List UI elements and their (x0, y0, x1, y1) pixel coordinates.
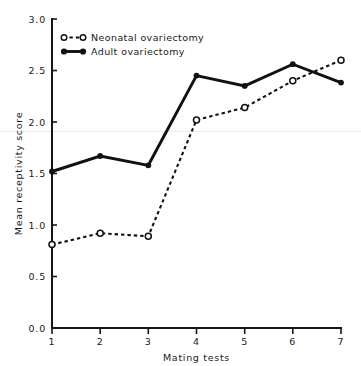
y-tick-label: 2.5 (28, 65, 46, 76)
data-point (290, 78, 296, 84)
data-point (194, 117, 200, 123)
x-tick-label: 5 (241, 336, 248, 347)
x-tick-label: 4 (193, 336, 200, 347)
legend-item-adult: Adult ovariectomy (61, 46, 185, 57)
data-point (97, 230, 103, 236)
y-tick-label: 1.5 (28, 168, 46, 179)
data-point (145, 233, 151, 239)
x-tick-label: 6 (289, 336, 296, 347)
data-point (194, 73, 200, 79)
series-neonatal-ovariectomy (49, 57, 344, 247)
neonatal-line (52, 60, 341, 244)
y-tick-label: 2.0 (28, 117, 46, 128)
x-tick-label: 1 (49, 336, 56, 347)
chart-legend: Neonatal ovariectomy Adult ovariectomy (61, 32, 204, 57)
y-tick-label: 0.5 (28, 271, 46, 282)
data-point (145, 162, 151, 168)
data-point (242, 105, 248, 111)
legend-marker-adult (80, 48, 86, 54)
neonatal-markers (49, 57, 344, 247)
x-tick-label: 7 (338, 336, 345, 347)
legend-item-neonatal: Neonatal ovariectomy (61, 32, 204, 43)
x-tick-label: 2 (97, 336, 104, 347)
x-tick-label: 3 (145, 336, 152, 347)
x-axis-title: Mating tests (163, 352, 230, 363)
x-axis-tick-labels: 1 2 3 4 5 6 7 (49, 336, 345, 347)
line-chart: 3.0 2.5 2.0 1.5 1.0 0.5 0.0 1 2 3 4 5 6 … (0, 0, 361, 366)
data-point (290, 61, 296, 67)
legend-marker-adult (61, 48, 67, 54)
y-tick-label: 0.0 (28, 323, 46, 334)
data-point (338, 57, 344, 63)
y-axis-title: Mean receptivity score (13, 112, 24, 235)
y-tick-label: 3.0 (28, 14, 46, 25)
chart-page: 3.0 2.5 2.0 1.5 1.0 0.5 0.0 1 2 3 4 5 6 … (0, 0, 361, 366)
legend-label-neonatal: Neonatal ovariectomy (91, 32, 204, 43)
data-point (49, 169, 55, 175)
legend-label-adult: Adult ovariectomy (91, 46, 185, 57)
legend-marker-neonatal (61, 35, 67, 41)
legend-marker-neonatal (80, 35, 86, 41)
data-point (97, 153, 103, 159)
data-point (338, 80, 344, 86)
data-point (49, 242, 55, 248)
y-tick-label: 1.0 (28, 220, 46, 231)
data-point (242, 83, 248, 89)
y-axis-tick-labels: 3.0 2.5 2.0 1.5 1.0 0.5 0.0 (28, 14, 46, 334)
